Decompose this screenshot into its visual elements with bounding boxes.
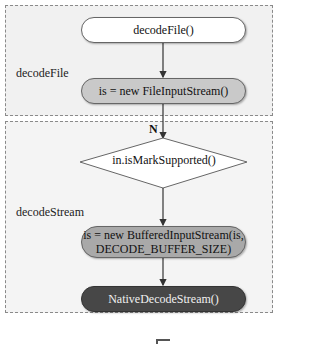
cropped-glyph [156,339,170,344]
edge-label-no: N [149,122,158,137]
decision-is-mark-supported: in.isMarkSupported() [82,153,246,168]
node-decode-file-start: decodeFile() [81,17,246,43]
node-file-input-stream: is = new FileInputStream() [81,78,246,104]
node-buffered-input-stream: is = new BufferedInputStream(is, DECODE_… [81,226,246,258]
node-native-decode-stream: NativeDecodeStream() [81,286,246,312]
